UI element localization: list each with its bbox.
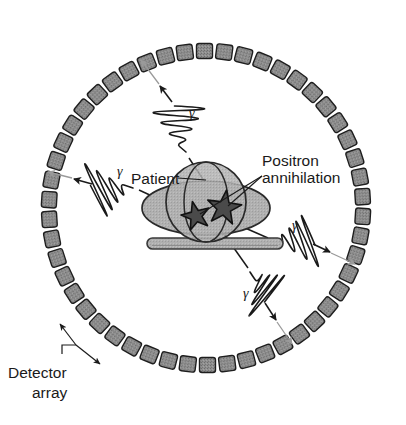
detector-element: [234, 46, 253, 65]
gamma-label-upper-left: γ: [189, 106, 195, 121]
patient-label: Patient: [131, 170, 180, 187]
detector-element: [41, 211, 57, 228]
detector-element: [352, 227, 370, 246]
gamma-label-lower-right: γ: [243, 286, 249, 301]
detector-element: [355, 188, 371, 205]
figure-canvas: γ γ γ γ: [0, 0, 406, 425]
detector-element: [159, 351, 178, 370]
detector-element: [218, 355, 236, 372]
gamma-label-left: γ: [117, 164, 123, 179]
detector-array-label-line1: Detector: [8, 364, 67, 381]
detector-element: [351, 168, 369, 187]
detector-element: [197, 44, 213, 59]
positron-annihilation-label-line1: Positron: [262, 152, 319, 169]
positron-annihilation-label-line2: annihilation: [262, 169, 340, 186]
detector-array-label-line2: array: [32, 384, 68, 401]
detector-element: [355, 208, 371, 225]
detector-element: [179, 356, 197, 373]
detector-element: [43, 171, 61, 190]
detector-element: [156, 47, 175, 66]
detector-element: [237, 350, 256, 369]
detector-element: [43, 230, 61, 249]
detector-element: [41, 191, 57, 208]
gamma-label-right: γ: [292, 218, 298, 233]
detector-element: [215, 44, 233, 61]
detector-element: [176, 44, 194, 61]
detector-element: [200, 358, 216, 373]
pet-scanner-figure: γ γ γ γ: [0, 0, 406, 425]
